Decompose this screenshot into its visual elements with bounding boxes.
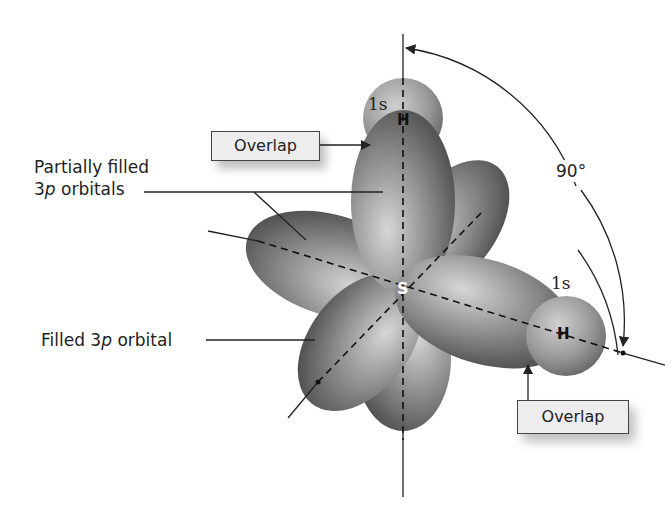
atom-label-h-top: H — [397, 111, 410, 129]
atom-label-sulfur: S — [397, 279, 409, 298]
filled-orbital-label: Filled 3p orbital — [41, 329, 172, 351]
orbital-label-top: 1s — [368, 94, 388, 114]
h2s-orbital-diagram — [0, 0, 672, 518]
partially-filled-label: Partially filled 3p orbitals — [34, 156, 149, 200]
angle-label: 90° — [554, 160, 588, 182]
orbital-label-right: 1s — [551, 273, 571, 293]
atom-label-h-right: H — [557, 325, 570, 343]
overlap-box-bottom: Overlap — [517, 400, 629, 434]
overlap-box-top: Overlap — [211, 131, 320, 161]
